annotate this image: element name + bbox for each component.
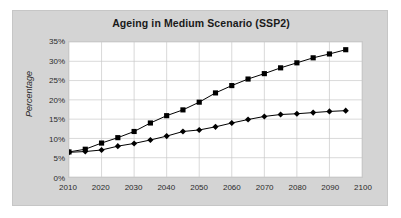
plot-area — [68, 41, 363, 178]
marker-square — [229, 83, 234, 88]
x-axis-tick-labels: 2010202020302040205020602070208020902100 — [68, 183, 363, 197]
y-tick-label: 30% — [31, 56, 65, 65]
y-tick-label: 25% — [31, 76, 65, 85]
marker-diamond — [278, 111, 284, 117]
series-line — [69, 50, 346, 152]
gridlines — [69, 42, 362, 177]
marker-diamond — [310, 110, 316, 116]
marker-square — [278, 65, 283, 70]
marker-diamond — [98, 147, 104, 153]
y-tick-label: 10% — [31, 134, 65, 143]
marker-diamond — [115, 143, 121, 149]
data-series-layer — [69, 47, 349, 155]
y-tick-label: 35% — [31, 37, 65, 46]
marker-diamond — [180, 128, 186, 134]
y-tick-label: 5% — [31, 154, 65, 163]
y-tick-label: 0% — [31, 174, 65, 183]
marker-diamond — [343, 108, 349, 114]
marker-diamond — [229, 120, 235, 126]
marker-square — [245, 76, 250, 81]
chart-title: Ageing in Medium Scenario (SSP2) — [13, 17, 389, 29]
y-tick-label: 20% — [31, 95, 65, 104]
marker-diamond — [294, 111, 300, 117]
marker-diamond — [212, 124, 218, 130]
marker-square — [132, 129, 137, 134]
marker-diamond — [196, 127, 202, 133]
marker-square — [180, 107, 185, 112]
marker-diamond — [245, 116, 251, 122]
marker-square — [213, 90, 218, 95]
marker-square — [262, 71, 267, 76]
marker-square — [197, 100, 202, 105]
chart-area: Ageing in Medium Scenario (SSP2) Percent… — [12, 10, 388, 206]
marker-diamond — [261, 113, 267, 119]
marker-square — [164, 113, 169, 118]
marker-square — [115, 135, 120, 140]
marker-square — [311, 55, 316, 60]
plot-svg — [69, 42, 362, 177]
marker-diamond — [131, 140, 137, 146]
x-tick-label: 2100 — [343, 183, 383, 192]
marker-square — [343, 47, 348, 52]
series-line — [69, 111, 346, 153]
marker-diamond — [326, 108, 332, 114]
chart-figure: Ageing in Medium Scenario (SSP2) Percent… — [0, 0, 401, 218]
y-tick-label: 15% — [31, 115, 65, 124]
marker-diamond — [147, 137, 153, 143]
marker-square — [99, 140, 104, 145]
data-series — [69, 108, 349, 156]
marker-square — [148, 120, 153, 125]
marker-square — [327, 51, 332, 56]
y-axis-tick-labels: 0%5%10%15%20%25%30%35% — [27, 41, 65, 178]
marker-square — [294, 60, 299, 65]
